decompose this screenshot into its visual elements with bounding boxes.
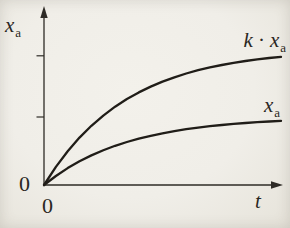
y-axis-arrowhead: [40, 6, 47, 18]
exponential-saturation-figure: xa k·xa xa 0 0 t: [0, 0, 290, 228]
y-axis-label: xa: [5, 15, 21, 36]
curve-label-factor: k: [244, 28, 253, 52]
curve-label-subscript: a: [280, 40, 286, 55]
x-axis-arrowhead: [271, 181, 283, 188]
curve-label-k-xa: k·xa: [218, 30, 286, 51]
curve-label-base: x: [264, 93, 273, 117]
curve-k-xa: [44, 57, 281, 185]
y-axis-label-subscript: a: [15, 25, 21, 40]
curve-label-xa: xa: [238, 95, 280, 116]
curve-xa: [44, 121, 281, 185]
y-origin-label: 0: [19, 173, 30, 195]
y-axis-label-base: x: [5, 13, 14, 37]
curve-label-base: x: [270, 28, 279, 52]
x-axis-label: t: [255, 191, 261, 212]
multiplication-dot: ·: [258, 28, 265, 52]
curve-label-subscript: a: [274, 105, 280, 120]
x-origin-label: 0: [42, 195, 53, 217]
